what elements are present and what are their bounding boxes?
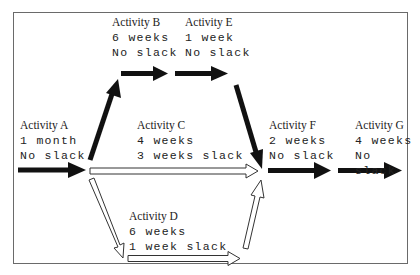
activity-d-duration: 6 weeks [129,224,227,239]
activity-b-slack: No slack [112,45,178,60]
activity-e-title: Activity E [185,15,251,30]
activity-d-slack: 1 week slack [129,239,227,254]
arrow-a-to-b [90,79,121,160]
activity-f-duration: 2 weeks [269,133,335,148]
activity-b-duration: 6 weeks [112,30,178,45]
arrow-d-to-f [243,180,264,249]
activity-f-slack: No slack [269,148,335,163]
activity-a-slack: No slack [20,148,86,163]
activity-c-title: Activity C [137,118,244,133]
activity-b-label: Activity B 6 weeks No slack [112,15,178,60]
activity-e-duration: 1 week [185,30,251,45]
activity-f-label: Activity F 2 weeks No slack [269,118,335,163]
activity-f-title: Activity F [269,118,335,133]
activity-c-label: Activity C 4 weeks 3 weeks slack [137,118,244,163]
arrow-activity-e [175,66,228,81]
activity-d-title: Activity D [129,209,227,224]
arrow-activity-a [18,162,86,178]
activity-b-title: Activity B [112,15,178,30]
arrow-activity-d-down [89,178,124,258]
activity-g-slack: No slack [355,148,420,163]
activity-a-duration: 1 month [20,133,86,148]
activity-g-label: Activity G 4 weeks No slack [355,118,420,163]
activity-d-label: Activity D 6 weeks 1 week slack [129,209,227,254]
activity-e-label: Activity E 1 week No slack [185,15,251,60]
activity-g-title: Activity G [355,118,420,133]
activity-a-label: Activity A 1 month No slack [20,118,86,163]
arrow-activity-b [121,66,168,81]
arrow-activity-f [268,162,331,179]
arrow-activity-c [90,164,258,178]
activity-a-title: Activity A [20,118,86,133]
activity-e-slack: No slack [185,45,251,60]
activity-c-slack: 3 weeks slack [137,148,244,163]
activity-c-duration: 4 weeks [137,133,244,148]
activity-g-duration: 4 weeks [355,133,420,148]
